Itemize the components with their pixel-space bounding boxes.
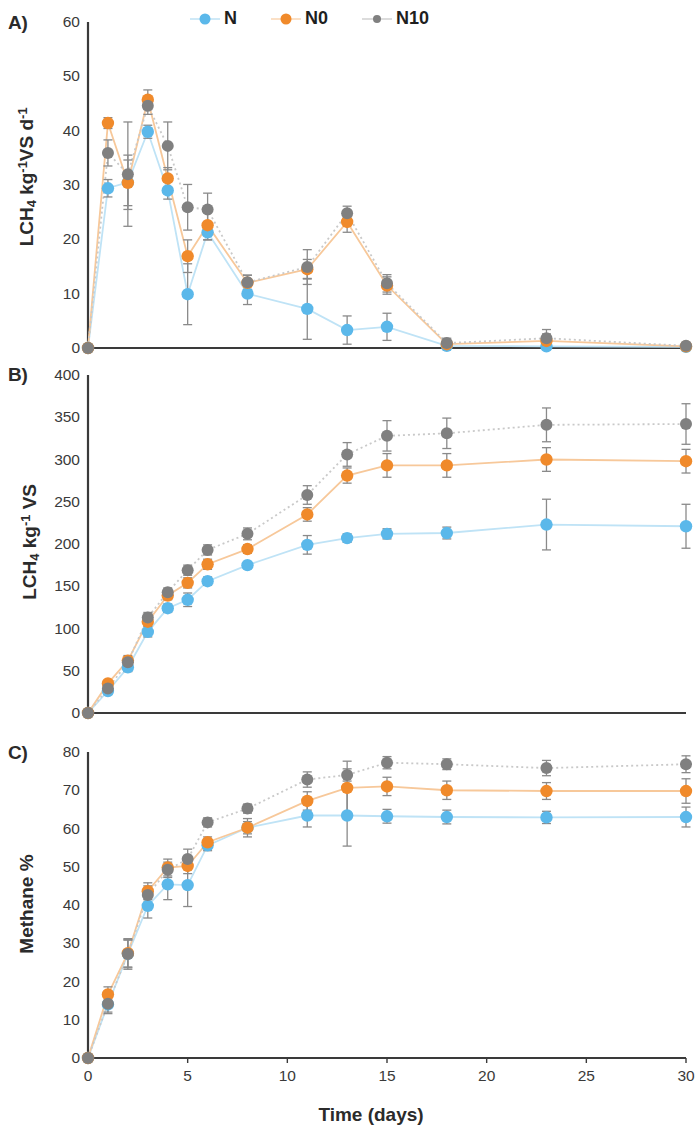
A-point-N10-day18 — [441, 337, 453, 349]
B-point-N10-day6 — [202, 544, 214, 556]
A-point-N-day4 — [162, 184, 174, 196]
C-point-N10-day30 — [680, 758, 692, 770]
C-point-N-day18 — [441, 811, 453, 823]
B-point-N10-day15 — [381, 430, 393, 442]
C-point-N10-day3 — [142, 889, 154, 901]
C-point-N10-day23 — [540, 762, 552, 774]
B-point-N-day23 — [540, 518, 552, 530]
C-point-N10-day18 — [441, 758, 453, 770]
B-line-N0 — [88, 460, 686, 714]
A-point-N10-day3 — [142, 100, 154, 112]
A-point-N-day13 — [341, 324, 353, 336]
B-point-N-day8 — [241, 559, 253, 571]
xtick-25: 25 — [566, 1068, 606, 1084]
C-ytick-40: 40 — [36, 897, 80, 913]
A-point-N-day3 — [142, 126, 154, 138]
B-point-N0-day18 — [441, 459, 453, 471]
C-point-N10-day8 — [241, 803, 253, 815]
C-point-N-day13 — [341, 809, 353, 821]
C-point-N0-day11 — [301, 795, 313, 807]
A-point-N0-day6 — [201, 219, 213, 231]
A-point-N0-day5 — [181, 250, 193, 262]
A-line-N10 — [88, 106, 686, 348]
C-point-N-day4 — [162, 878, 174, 890]
B-point-N-day6 — [201, 575, 213, 587]
C-point-N0-day30 — [680, 785, 692, 797]
B-point-N0-day15 — [381, 459, 393, 471]
C-point-N10-day11 — [301, 774, 313, 786]
B-ytick-200: 200 — [36, 536, 80, 552]
B-point-N-day18 — [441, 527, 453, 539]
C-point-N-day3 — [142, 900, 154, 912]
B-point-N-day4 — [162, 602, 174, 614]
C-point-N10-day0 — [82, 1052, 94, 1064]
A-ytick-20: 20 — [36, 231, 80, 247]
A-point-N0-day4 — [162, 172, 174, 184]
C-point-N0-day18 — [441, 784, 453, 796]
A-ytick-0: 0 — [36, 340, 80, 356]
C-point-N10-day5 — [182, 853, 194, 865]
B-point-N10-day1 — [102, 682, 114, 694]
B-point-N10-day0 — [82, 707, 94, 719]
A-point-N-day1 — [102, 182, 114, 194]
A-ytick-10: 10 — [36, 286, 80, 302]
C-point-N0-day6 — [201, 836, 213, 848]
B-point-N-day13 — [341, 532, 353, 544]
B-point-N-day15 — [381, 528, 393, 540]
C-ytick-30: 30 — [36, 935, 80, 951]
A-point-N10-day6 — [202, 203, 214, 215]
B-line-N — [88, 525, 686, 713]
B-ytick-250: 250 — [36, 494, 80, 510]
B-point-N10-day2 — [122, 656, 134, 668]
C-point-N10-day6 — [202, 816, 214, 828]
C-point-N-day23 — [540, 811, 552, 823]
xtick-15: 15 — [367, 1068, 407, 1084]
B-ytick-400: 400 — [36, 367, 80, 383]
B-point-N10-day18 — [441, 427, 453, 439]
C-line-N0 — [88, 786, 686, 1058]
A-ytick-30: 30 — [36, 177, 80, 193]
B-point-N0-day5 — [181, 577, 193, 589]
C-ytick-0: 0 — [36, 1050, 80, 1066]
B-ytick-300: 300 — [36, 452, 80, 468]
B-point-N10-day23 — [540, 419, 552, 431]
C-point-N0-day8 — [241, 822, 253, 834]
A-ytick-40: 40 — [36, 123, 80, 139]
xtick-20: 20 — [467, 1068, 507, 1084]
C-point-N10-day13 — [341, 769, 353, 781]
C-point-N-day15 — [381, 810, 393, 822]
C-point-N0-day13 — [341, 782, 353, 794]
B-ytick-350: 350 — [36, 409, 80, 425]
A-point-N-day11 — [301, 303, 313, 315]
xtick-30: 30 — [666, 1068, 699, 1084]
A-point-N-day15 — [381, 321, 393, 333]
B-point-N-day5 — [181, 594, 193, 606]
A-point-N10-day8 — [241, 276, 253, 288]
A-line-N0 — [88, 100, 686, 348]
xtick-5: 5 — [168, 1068, 208, 1084]
A-point-N10-day1 — [102, 147, 114, 159]
B-ytick-0: 0 — [36, 705, 80, 721]
A-ytick-50: 50 — [36, 68, 80, 84]
B-point-N10-day11 — [301, 489, 313, 501]
C-ytick-50: 50 — [36, 859, 80, 875]
B-point-N10-day8 — [241, 528, 253, 540]
A-point-N10-day15 — [381, 277, 393, 289]
C-point-N-day5 — [181, 879, 193, 891]
C-point-N10-day1 — [102, 998, 114, 1010]
C-ytick-60: 60 — [36, 821, 80, 837]
A-point-N10-day13 — [341, 207, 353, 219]
B-point-N0-day11 — [301, 508, 313, 520]
A-point-N10-day0 — [82, 342, 94, 354]
B-point-N10-day13 — [341, 448, 353, 460]
C-ytick-10: 10 — [36, 1012, 80, 1028]
C-ytick-20: 20 — [36, 974, 80, 990]
B-ytick-100: 100 — [36, 621, 80, 637]
A-point-N-day8 — [241, 287, 253, 299]
B-point-N0-day6 — [201, 558, 213, 570]
C-point-N0-day23 — [540, 785, 552, 797]
C-ytick-70: 70 — [36, 782, 80, 798]
B-point-N-day30 — [680, 520, 692, 532]
A-point-N10-day30 — [680, 340, 692, 352]
